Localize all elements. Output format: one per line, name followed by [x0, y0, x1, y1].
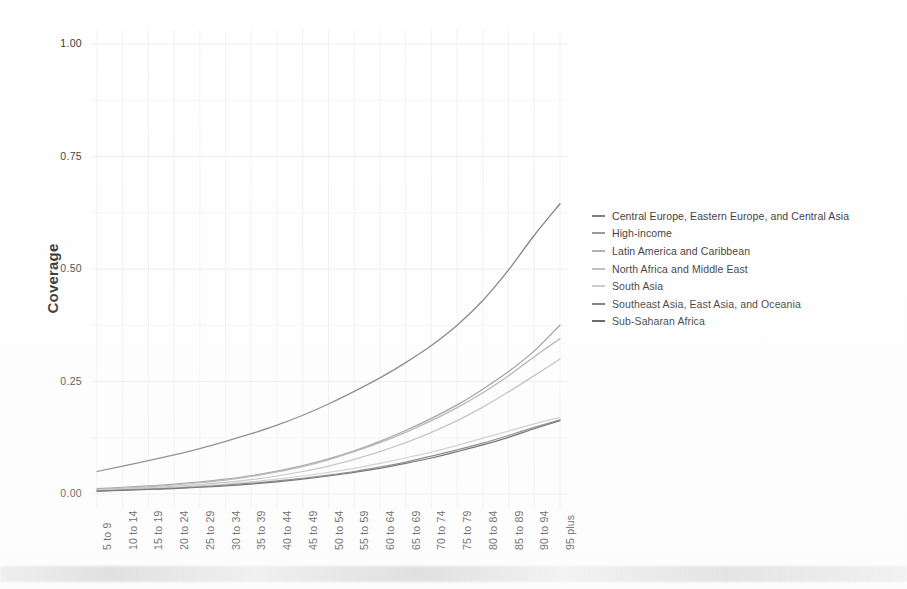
legend-line-swatch-icon — [592, 268, 605, 270]
legend-item-label: Southeast Asia, East Asia, and Oceania — [612, 298, 801, 310]
legend-line-swatch-icon — [592, 232, 605, 234]
x-tick-label: 15 to 19 — [152, 510, 164, 550]
legend-item[interactable]: Southeast Asia, East Asia, and Oceania — [592, 295, 902, 313]
x-tick-label: 5 to 9 — [101, 523, 113, 550]
x-tick-label: 80 to 84 — [487, 510, 499, 550]
legend-item[interactable]: North Africa and Middle East — [592, 260, 902, 278]
x-tick-label: 50 to 54 — [333, 510, 345, 550]
y-axis-title: Coverage — [44, 219, 61, 339]
legend-item-label: South Asia — [612, 280, 663, 292]
x-tick-label: 25 to 29 — [204, 510, 216, 550]
legend-item-label: High-income — [612, 227, 672, 239]
scan-artifact-strip — [0, 566, 907, 582]
y-tick-label: 0.50 — [42, 262, 82, 274]
x-tick-label: 70 to 74 — [435, 510, 447, 550]
x-tick-label: 40 to 44 — [281, 510, 293, 550]
x-tick-label: 85 to 89 — [513, 510, 525, 550]
y-tick-label: 1.00 — [42, 37, 82, 49]
legend-line-swatch-icon — [592, 320, 605, 322]
legend-item[interactable]: Central Europe, Eastern Europe, and Cent… — [592, 207, 902, 225]
y-tick-label: 0.75 — [42, 150, 82, 162]
legend-item[interactable]: South Asia — [592, 277, 902, 295]
legend-item-label: Latin America and Caribbean — [612, 245, 750, 257]
legend-line-swatch-icon — [592, 285, 605, 287]
legend-item[interactable]: Latin America and Caribbean — [592, 242, 902, 260]
x-tick-label: 35 to 39 — [255, 510, 267, 550]
legend: Central Europe, Eastern Europe, and Cent… — [592, 207, 902, 330]
x-tick-label: 10 to 14 — [127, 510, 139, 550]
legend-item-label: Central Europe, Eastern Europe, and Cent… — [612, 210, 849, 222]
legend-line-swatch-icon — [592, 250, 605, 252]
legend-line-swatch-icon — [592, 303, 605, 305]
x-tick-label: 95 plus — [564, 515, 576, 550]
x-tick-label: 45 to 49 — [307, 510, 319, 550]
grid-lines — [91, 30, 568, 508]
x-tick-label: 65 to 69 — [410, 510, 422, 550]
legend-item[interactable]: High-income — [592, 225, 902, 243]
x-tick-label: 30 to 34 — [230, 510, 242, 550]
legend-line-swatch-icon — [592, 215, 605, 217]
x-tick-label: 90 to 94 — [538, 510, 550, 550]
legend-item-label: North Africa and Middle East — [612, 263, 748, 275]
y-tick-label: 0.00 — [42, 487, 82, 499]
plot-area — [90, 30, 570, 508]
legend-item[interactable]: Sub-Saharan Africa — [592, 313, 902, 331]
x-tick-label: 55 to 59 — [358, 510, 370, 550]
x-tick-label: 75 to 79 — [461, 510, 473, 550]
legend-item-label: Sub-Saharan Africa — [612, 315, 705, 327]
y-tick-label: 0.25 — [42, 375, 82, 387]
x-tick-label: 20 to 24 — [178, 510, 190, 550]
x-tick-label: 60 to 64 — [384, 510, 396, 550]
coverage-by-age-line-chart: Coverage 0.000.250.500.751.00 5 to 910 t… — [0, 0, 907, 589]
